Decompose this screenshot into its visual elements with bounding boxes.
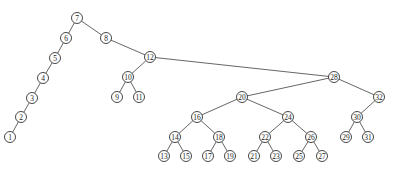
tree-edge-8-12: [106, 38, 150, 57]
tree-node-3: 3: [27, 93, 38, 104]
tree-node-23: 23: [271, 151, 282, 162]
node-label: 27: [318, 152, 326, 161]
tree-node-31: 31: [363, 132, 374, 143]
tree-node-7: 7: [72, 13, 83, 24]
tree-node-16: 16: [192, 112, 203, 123]
tree-node-12: 12: [145, 52, 156, 63]
tree-edge-28-20: [242, 77, 334, 97]
node-label: 29: [342, 133, 350, 142]
tree-node-32: 32: [374, 92, 385, 103]
node-label: 2: [19, 113, 23, 122]
node-label: 8: [104, 34, 108, 43]
tree-node-15: 15: [181, 151, 192, 162]
tree-node-30: 30: [352, 112, 363, 123]
node-label: 22: [261, 133, 269, 142]
tree-node-17: 17: [203, 151, 214, 162]
node-label: 10: [124, 73, 132, 82]
node-label: 14: [171, 133, 179, 142]
tree-node-24: 24: [283, 112, 294, 123]
tree-node-14: 14: [170, 132, 181, 143]
tree-edge-28-32: [334, 77, 379, 97]
tree-node-28: 28: [329, 72, 340, 83]
tree-node-2: 2: [16, 112, 27, 123]
node-label: 13: [160, 152, 168, 161]
tree-node-27: 27: [317, 151, 328, 162]
node-label: 15: [182, 152, 190, 161]
node-label: 7: [75, 14, 79, 23]
node-label: 24: [284, 113, 292, 122]
node-label: 3: [30, 94, 34, 103]
node-label: 4: [41, 74, 45, 83]
node-label: 28: [330, 73, 338, 82]
tree-node-4: 4: [38, 73, 49, 84]
tree-node-21: 21: [249, 151, 260, 162]
tree-diagram: 7654321812109112820321624301418222629311…: [0, 0, 398, 173]
tree-node-29: 29: [341, 132, 352, 143]
tree-node-22: 22: [260, 132, 271, 143]
node-label: 32: [375, 93, 383, 102]
tree-node-18: 18: [214, 132, 225, 143]
node-label: 12: [146, 53, 154, 62]
tree-node-9: 9: [112, 92, 123, 103]
tree-node-6: 6: [61, 33, 72, 44]
tree-node-20: 20: [237, 92, 248, 103]
node-label: 26: [307, 133, 315, 142]
tree-node-10: 10: [123, 72, 134, 83]
node-label: 5: [53, 54, 57, 63]
node-label: 17: [204, 152, 212, 161]
node-label: 31: [364, 133, 372, 142]
nodes-layer: 7654321812109112820321624301418222629311…: [5, 13, 385, 162]
node-label: 23: [272, 152, 280, 161]
node-label: 30: [353, 113, 361, 122]
node-label: 16: [193, 113, 201, 122]
node-label: 25: [295, 152, 303, 161]
tree-node-5: 5: [50, 53, 61, 64]
node-label: 1: [8, 133, 12, 142]
node-label: 9: [115, 93, 119, 102]
node-label: 21: [250, 152, 258, 161]
node-label: 11: [135, 93, 142, 102]
tree-edge-20-16: [197, 97, 242, 117]
tree-node-1: 1: [5, 132, 16, 143]
node-label: 20: [238, 93, 246, 102]
tree-node-26: 26: [306, 132, 317, 143]
node-label: 18: [215, 133, 223, 142]
tree-node-13: 13: [159, 151, 170, 162]
node-label: 19: [226, 152, 234, 161]
tree-node-8: 8: [101, 33, 112, 44]
tree-edge-12-28: [150, 57, 334, 77]
tree-node-19: 19: [225, 151, 236, 162]
tree-node-25: 25: [294, 151, 305, 162]
node-label: 6: [64, 34, 68, 43]
tree-node-11: 11: [134, 92, 145, 103]
tree-edge-20-24: [242, 97, 288, 117]
